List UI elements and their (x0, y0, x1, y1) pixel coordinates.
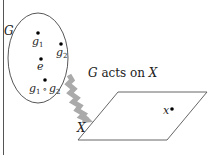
action-arrow (68, 75, 88, 120)
point-dot-x (170, 107, 174, 111)
point-label-x: x (163, 104, 170, 117)
element-label-e: e (37, 60, 44, 73)
product-label: g1∘g2 (29, 82, 60, 96)
space-plane (78, 92, 207, 140)
element-dot-product (43, 78, 47, 82)
space-label: X (76, 121, 86, 135)
group-action-diagram: G g1 g2 e g1∘g2 G acts on X X x (0, 0, 218, 155)
element-label-g1: g1 (32, 35, 44, 49)
action-label: G acts on X (88, 66, 158, 80)
group-label: G (4, 24, 14, 38)
element-label-g2: g2 (56, 46, 68, 60)
